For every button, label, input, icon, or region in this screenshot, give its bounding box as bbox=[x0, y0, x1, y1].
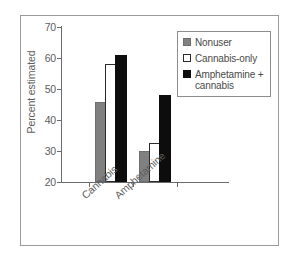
legend-label-line-1: Amphetamine + bbox=[195, 69, 263, 80]
y-tick-label-20: 20 bbox=[22, 177, 56, 187]
legend-item-nonuser: Nonuser bbox=[183, 37, 265, 48]
y-tick-label-60: 60 bbox=[22, 53, 56, 63]
y-tick-70 bbox=[57, 27, 62, 28]
y-tick-label-40: 40 bbox=[22, 115, 56, 125]
x-tick-right-edge bbox=[177, 182, 178, 187]
bar-cannabis-amphetamine-plus-cannabis bbox=[115, 55, 127, 182]
y-tick-50 bbox=[57, 89, 62, 90]
y-tick-40 bbox=[57, 120, 62, 121]
bar-amphetamine-amphetamine-plus-cannabis bbox=[159, 95, 171, 182]
y-tick-label-20-wrap: 20 bbox=[18, 177, 56, 188]
y-tick-60 bbox=[57, 58, 62, 59]
y-tick-label-40-wrap: 40 bbox=[18, 115, 56, 126]
y-tick-label-70: 70 bbox=[22, 22, 56, 32]
y-tick-20 bbox=[57, 182, 62, 183]
legend: Nonuser Cannabis-only Amphetamine + cann… bbox=[177, 31, 271, 97]
legend-label-amphetamine-plus-cannabis: Amphetamine + cannabis bbox=[195, 69, 263, 91]
y-tick-label-70-wrap: 70 bbox=[18, 22, 56, 33]
legend-label-nonuser: Nonuser bbox=[195, 37, 232, 48]
legend-item-cannabis-only: Cannabis-only bbox=[183, 53, 265, 64]
legend-swatch-cannabis-only-icon bbox=[183, 54, 191, 62]
y-tick-30 bbox=[57, 151, 62, 152]
legend-item-amphetamine-plus-cannabis: Amphetamine + cannabis bbox=[183, 69, 265, 91]
legend-label-line-2: cannabis bbox=[195, 80, 234, 91]
figure: Percent estimated 70 60 50 40 30 20 Cann bbox=[0, 0, 300, 264]
y-axis-line bbox=[61, 26, 62, 183]
y-tick-label-30: 30 bbox=[22, 146, 56, 156]
y-tick-label-50-wrap: 50 bbox=[18, 84, 56, 95]
legend-swatch-amphetamine-plus-cannabis-icon bbox=[183, 70, 191, 78]
y-tick-label-60-wrap: 60 bbox=[18, 53, 56, 64]
legend-label-cannabis-only: Cannabis-only bbox=[195, 53, 257, 64]
x-axis-line bbox=[61, 182, 229, 183]
y-tick-label-50: 50 bbox=[22, 84, 56, 94]
legend-swatch-nonuser-icon bbox=[183, 38, 191, 46]
y-tick-label-30-wrap: 30 bbox=[18, 146, 56, 157]
